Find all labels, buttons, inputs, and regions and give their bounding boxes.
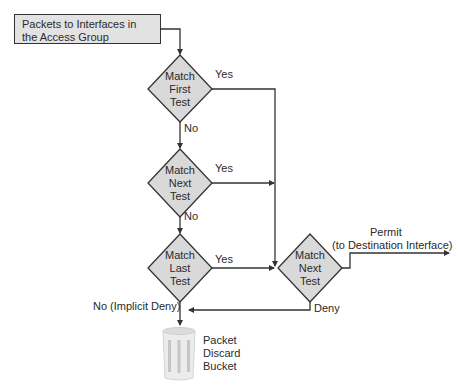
bucket-line3: Bucket — [203, 360, 240, 373]
next-test-2-label: Match Next Test — [285, 249, 335, 288]
permit-arrow — [342, 253, 449, 268]
start-box-packets-to-interfaces: Packets to Interfaces in the Access Grou… — [14, 14, 161, 44]
packet-discard-bucket-icon — [163, 328, 195, 381]
last-test-line2: Last — [155, 262, 205, 275]
permit-sub-label: (to Destination Interface) — [332, 239, 452, 252]
bucket-line1: Packet — [203, 334, 240, 347]
bucket-label: Packet Discard Bucket — [203, 334, 240, 373]
deny-arrow — [189, 302, 310, 310]
yes-label-1: Yes — [215, 68, 233, 81]
last-test-line3: Test — [155, 275, 205, 288]
flowchart-connectors — [0, 0, 459, 385]
next-test-2-line3: Test — [285, 275, 335, 288]
start-label-line1: Packets to Interfaces in — [22, 18, 160, 31]
first-test-line1: Match — [155, 70, 205, 83]
start-to-first-test-arrow — [161, 29, 180, 54]
next-test-1-line1: Match — [155, 164, 205, 177]
yes-label-2: Yes — [215, 162, 233, 175]
first-test-line3: Test — [155, 96, 205, 109]
next-test-1-label: Match Next Test — [155, 164, 205, 203]
last-test-line1: Match — [155, 249, 205, 262]
yes-arrow-1 — [212, 89, 275, 266]
deny-label: Deny — [314, 302, 340, 315]
next-test-1-line3: Test — [155, 190, 205, 203]
next-test-2-line2: Next — [285, 262, 335, 275]
next-test-1-line2: Next — [155, 177, 205, 190]
first-test-line2: First — [155, 83, 205, 96]
permit-label: Permit — [370, 226, 402, 239]
no-label-2: No — [184, 210, 198, 223]
next-test-2-line1: Match — [285, 249, 335, 262]
bucket-line2: Discard — [203, 347, 240, 360]
no-label-1: No — [184, 122, 198, 135]
last-test-label: Match Last Test — [155, 249, 205, 288]
yes-label-3: Yes — [215, 253, 233, 266]
first-test-label: Match First Test — [155, 70, 205, 109]
start-label-line2: the Access Group — [22, 31, 160, 44]
implicit-deny-label: No (Implicit Deny) — [93, 300, 180, 313]
